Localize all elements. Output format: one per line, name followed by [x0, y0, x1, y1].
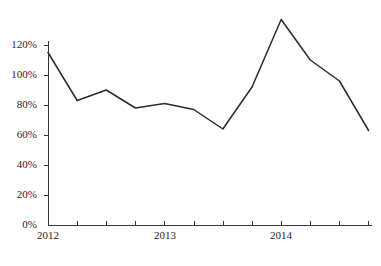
y-tick-label-100: 100% [11, 68, 37, 80]
y-tick-label-120: 120% [11, 38, 37, 50]
y-tick-label-60: 60% [17, 128, 37, 140]
y-axis-tick-labels: 120% 100% 80% 60% 40% 20% 0% [11, 38, 37, 230]
line-chart-figure: 120% 100% 80% 60% 40% 20% 0% [0, 0, 381, 266]
chart-canvas: 120% 100% 80% 60% 40% 20% 0% [0, 0, 381, 266]
x-tick-label-2013: 2013 [154, 229, 177, 241]
y-tick-label-40: 40% [17, 158, 37, 170]
x-tick-label-2012: 2012 [37, 229, 59, 241]
y-axis-ticks [44, 45, 48, 195]
x-tick-label-2014: 2014 [270, 229, 293, 241]
y-tick-label-80: 80% [17, 98, 37, 110]
y-tick-label-20: 20% [17, 188, 37, 200]
x-axis-ticks [78, 221, 369, 225]
x-axis-tick-labels: 2012 2013 2014 [37, 229, 293, 241]
y-tick-label-0: 0% [22, 218, 37, 230]
data-series-line [48, 20, 369, 131]
